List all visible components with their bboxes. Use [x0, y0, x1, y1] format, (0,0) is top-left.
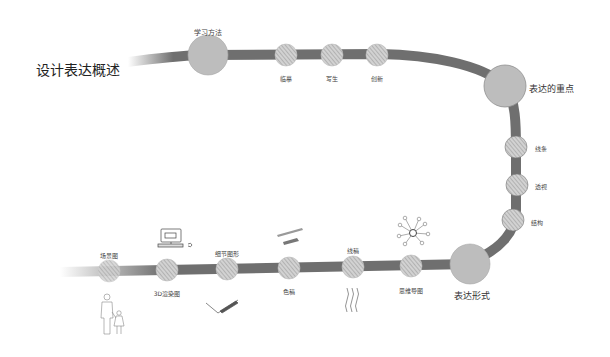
diagram-title: 设计表达概述 [36, 59, 120, 79]
section-label-learning-methods: 学习方法 [194, 27, 222, 37]
pen-illustration [206, 300, 238, 313]
item-label-detail: 细节图形 [215, 249, 239, 258]
item-label-innovation: 创新 [371, 74, 383, 83]
item-label-color-draft: 色稿 [283, 287, 295, 296]
section-label-expression-forms: 表达形式 [454, 289, 490, 302]
item-label-mind-map: 思维导图 [399, 286, 423, 295]
item-label-structure: 结构 [531, 218, 543, 227]
node-expression-focus [484, 65, 526, 107]
wavy-lines-illustration [346, 288, 359, 312]
item-label-lines: 线条 [535, 144, 547, 153]
item-label-3d-render: 3D渲染图 [154, 289, 180, 298]
node-learning-methods [188, 35, 228, 75]
item-label-copy: 临摹 [280, 74, 292, 83]
people-illustration [101, 294, 124, 334]
item-label-line-draft: 线稿 [347, 246, 359, 255]
mind-map-illustration [397, 216, 430, 246]
item-label-perspective: 透视 [535, 182, 547, 191]
marker-illustration [277, 228, 303, 245]
computer-illustration [158, 229, 192, 247]
item-label-scene: 场景图 [100, 251, 118, 260]
roadmap-path [0, 0, 610, 357]
section-label-expression-focus: 表达的重点 [529, 82, 574, 95]
node-expression-forms [450, 244, 490, 284]
item-label-sketch-from-life: 写生 [326, 74, 338, 83]
